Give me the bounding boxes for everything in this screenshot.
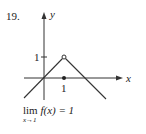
y-tick-label: 1: [34, 51, 40, 63]
limit-statement: lim f(x) = 1 x→1: [23, 104, 74, 116]
limit-subscript: x→1: [23, 116, 37, 124]
open-point-icon: [62, 55, 66, 59]
graph-line-right: [66, 59, 107, 100]
y-axis-label: y: [49, 8, 55, 20]
y-axis-arrow-icon: [42, 12, 47, 19]
limit-lim: lim: [23, 104, 38, 116]
x-axis-label: x: [125, 72, 131, 84]
filled-point-icon: [62, 76, 66, 80]
x-axis-arrow-icon: [116, 76, 123, 81]
x-tick-label: 1: [61, 82, 67, 94]
limit-expression: f(x) = 1: [40, 104, 74, 116]
